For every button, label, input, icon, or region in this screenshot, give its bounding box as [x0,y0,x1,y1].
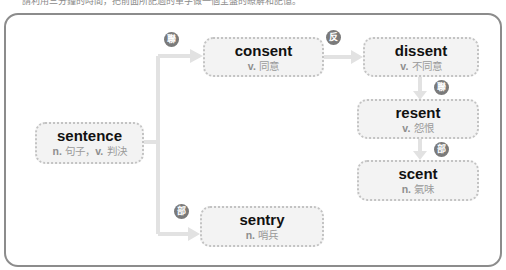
node-sentence: sentence n. 句子，v. 判決 [35,122,144,164]
def-text: 同意 [259,60,279,72]
def-text: 句子 [65,145,85,157]
node-resent: resent v. 怨恨 [357,99,479,139]
def-text: 氣味 [414,183,434,195]
arrow-to-scent [413,151,427,160]
def-text: 哨兵 [258,229,278,241]
word-sentry: sentry [202,211,322,228]
definition-sentry: n. 哨兵 [202,228,322,242]
definition-dissent: v. 不同意 [365,59,477,73]
word-sentence: sentence [37,127,142,144]
arrow-to-sentry [188,227,200,241]
association-badge-icon: 聯 [164,32,179,47]
pos-label: v. [400,60,408,72]
arrow-to-consent [190,49,203,63]
word-dissent: dissent [365,42,477,59]
node-dissent: dissent v. 不同意 [363,37,479,77]
arrow-to-dissent [351,50,363,64]
def-text: 怨恨 [414,122,434,134]
pos-label: n. [402,183,411,195]
pos-label: n. [52,145,61,157]
definition-sentence: n. 句子，v. 判決 [37,144,142,158]
pos-label: v. [95,145,103,157]
pos-label: n. [246,229,255,241]
separator: ， [85,145,95,157]
antonym-badge-icon: 反 [326,30,341,45]
part-badge-icon: 部 [174,204,189,219]
def-text: 判決 [107,145,127,157]
part-badge-icon: 部 [434,142,449,157]
def-text: 不同意 [412,60,442,72]
pos-label: v. [248,60,256,72]
node-scent: scent n. 氣味 [357,160,479,201]
definition-consent: v. 同意 [205,59,322,73]
definition-resent: v. 怨恨 [359,121,477,135]
pos-label: v. [402,122,410,134]
node-sentry: sentry n. 哨兵 [200,206,324,247]
definition-scent: n. 氣味 [359,182,477,196]
association-badge-icon: 聯 [434,80,449,95]
word-resent: resent [359,104,477,121]
word-consent: consent [205,42,322,59]
word-scent: scent [359,165,477,182]
node-consent: consent v. 同意 [203,37,324,77]
